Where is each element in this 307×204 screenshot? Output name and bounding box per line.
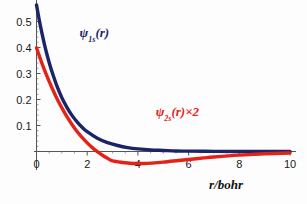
- y-axis-tick-label: 0.4: [16, 42, 31, 54]
- chart-canvas: 0246810 0.10.20.30.40.5 ψ1s(r) ψ2s(r)×2 …: [0, 0, 307, 204]
- x-axis-tick-label: 2: [84, 158, 90, 170]
- y-axis-tick-labels: 0.10.20.30.40.5: [16, 16, 31, 132]
- x-axis-tick-label: 0: [33, 158, 39, 170]
- series-label-psi-2s: ψ2s(r)×2: [156, 104, 200, 123]
- x-axis-title: r/bohr: [209, 177, 244, 192]
- y-axis-tick-label: 0.1: [16, 120, 31, 132]
- y-axis-tick-label: 0.5: [16, 16, 31, 28]
- chart-figure: 0246810 0.10.20.30.40.5 ψ1s(r) ψ2s(r)×2 …: [0, 0, 307, 204]
- x-axis-tick-label: 10: [284, 158, 296, 170]
- y-axis-tick-label: 0.2: [16, 94, 31, 106]
- y-axis-tick-label: 0.3: [16, 68, 31, 80]
- x-axis-tick-label: 8: [236, 158, 242, 170]
- series-label-psi-1s: ψ1s(r): [80, 25, 110, 44]
